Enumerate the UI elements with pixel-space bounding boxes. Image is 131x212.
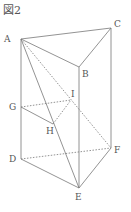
vertex-label-D: D xyxy=(9,154,16,164)
edge-AC xyxy=(21,28,111,39)
vertex-label-A: A xyxy=(3,34,11,44)
edge-AB xyxy=(21,39,79,67)
edge-DE xyxy=(21,159,79,188)
edge-EF xyxy=(79,148,111,188)
edge-AE xyxy=(21,39,79,188)
vertex-label-E: E xyxy=(75,192,82,202)
triangular-prism-diagram: ABCDEFGHI xyxy=(0,0,131,212)
edge-BC xyxy=(79,28,111,67)
edge-AF-hidden xyxy=(21,39,111,148)
vertex-label-F: F xyxy=(114,145,120,155)
vertex-label-G: G xyxy=(9,102,16,112)
vertex-label-H: H xyxy=(46,126,54,136)
edge-HI-hidden xyxy=(53,100,71,124)
vertex-label-C: C xyxy=(114,19,121,29)
edge-DF-hidden xyxy=(21,148,111,159)
vertex-label-I: I xyxy=(71,89,75,99)
edge-GI-hidden xyxy=(21,100,71,107)
vertex-label-B: B xyxy=(82,69,89,79)
